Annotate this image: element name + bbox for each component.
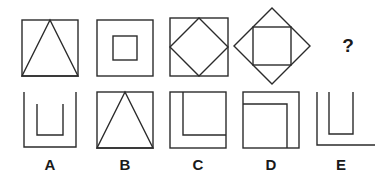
- square-outline: [243, 92, 299, 148]
- square-outline: [170, 18, 228, 76]
- triangle-outline: [22, 20, 78, 76]
- answer-option-d[interactable]: D: [243, 92, 299, 173]
- inner-l-bracket: [183, 92, 226, 135]
- inner-corner-bracket: [243, 104, 287, 148]
- answer-option-e[interactable]: E: [317, 92, 375, 173]
- answer-option-a-label: A: [45, 156, 56, 173]
- answer-option-a[interactable]: A: [24, 92, 76, 173]
- inner-diamond-outline: [170, 18, 228, 76]
- answer-option-e-label: E: [336, 156, 346, 173]
- answer-option-b-label: B: [120, 156, 131, 173]
- answer-option-c-label: C: [193, 156, 204, 173]
- outer-u-bracket: [24, 92, 76, 147]
- outer-u-bracket-extended: [317, 92, 375, 145]
- square-outline: [22, 20, 78, 76]
- problem-figure-4[interactable]: [234, 8, 310, 84]
- square-outline: [97, 92, 153, 148]
- problem-figure-3[interactable]: [170, 18, 228, 76]
- inner-u-bracket: [329, 92, 353, 134]
- question-mark-label: ?: [342, 35, 354, 56]
- answer-option-c[interactable]: C: [170, 92, 226, 173]
- answer-option-b[interactable]: B: [97, 92, 153, 173]
- problem-figure-1[interactable]: [22, 20, 78, 76]
- inner-square-outline: [253, 27, 291, 65]
- problem-row: ?: [22, 8, 354, 84]
- answer-options-row: A B C D E: [24, 92, 375, 173]
- diamond-outline: [234, 8, 310, 84]
- problem-figure-5-unknown[interactable]: ?: [342, 35, 354, 56]
- square-outline: [97, 20, 153, 76]
- problem-figure-2[interactable]: [97, 20, 153, 76]
- square-outline: [170, 92, 226, 148]
- analogy-puzzle-diagram: ? A B C D: [0, 0, 389, 180]
- answer-option-d-label: D: [266, 156, 277, 173]
- triangle-outline: [97, 92, 153, 148]
- inner-u-bracket: [37, 104, 63, 135]
- inner-square-outline: [113, 36, 137, 60]
